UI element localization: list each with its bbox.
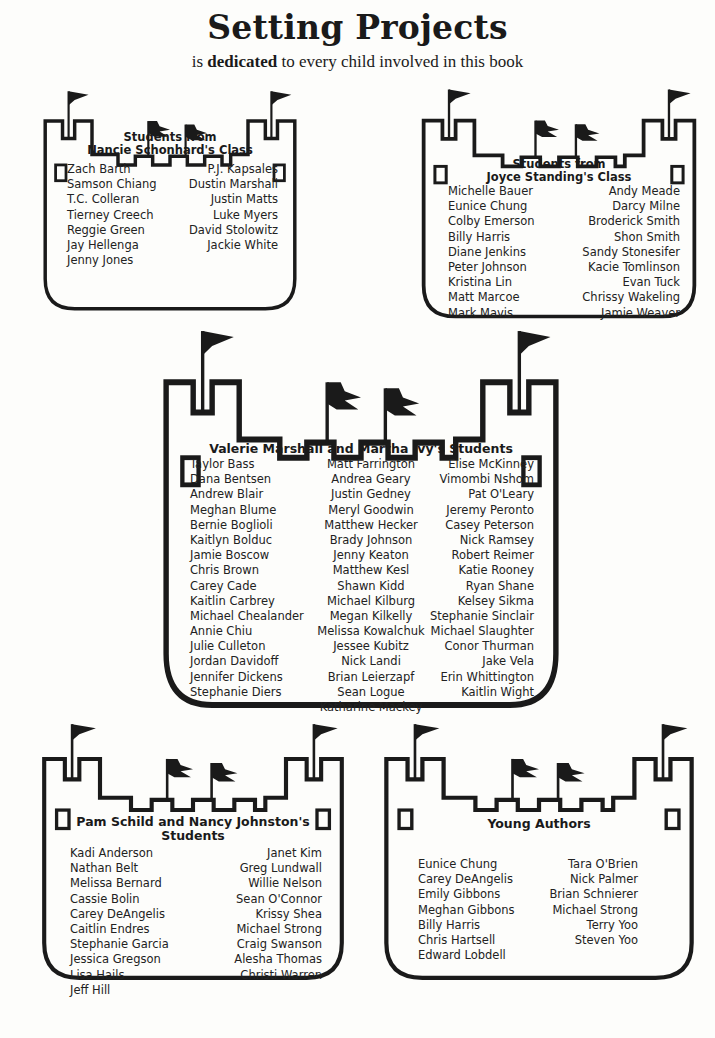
list-item: Meghan Gibbons [418,903,515,918]
list-item: Michael Chealander [190,609,304,624]
name-list-right: Elise McKinney Vimombi Nshom Pat O'Leary… [430,457,534,700]
list-item: Andy Meade [582,184,680,199]
list-item: Jeremy Peronto [430,503,534,518]
list-item: Michael Slaughter [430,624,534,639]
castle-nancie-schonhard: Students from Nancie Schonhard's Class Z… [40,86,300,314]
list-item: Samson Chiang [67,177,157,192]
list-item: Brian Leierzapf [306,670,436,685]
list-item: Michael Kilburg [306,594,436,609]
list-item: Jennifer Dickens [190,670,304,685]
list-item: Eunice Chung [448,199,535,214]
name-list-left: Taylor Bass Dana Bentsen Andrew Blair Me… [190,457,304,700]
list-item: Matthew Hecker [306,518,436,533]
list-item: Nick Landi [306,654,436,669]
list-item: Vimombi Nshom [430,472,534,487]
list-item: Reggie Green [67,223,157,238]
castle-joyce-standing: Students from Joyce Standing's Class Mic… [418,84,700,322]
list-item: Tierney Creech [67,208,157,223]
list-item: Craig Swanson [234,937,322,952]
list-item: Evan Tuck [582,275,680,290]
list-item: Ryan Shane [430,579,534,594]
list-item: Kaitlyn Bolduc [190,533,304,548]
list-item: Jordan Davidoff [190,654,304,669]
list-item: Tara O'Brien [549,857,638,872]
castle-heading: Students from Joyce Standing's Class [418,158,700,183]
subtitle-post: to every child involved in this book [277,52,523,71]
list-item: Matt Marcoe [448,290,535,305]
list-item: Christi Warren [234,968,322,983]
list-item: Emily Gibbons [418,887,515,902]
list-item: Carey DeAngelis [70,907,169,922]
castle-young-authors: Young Authors Eunice Chung Carey DeAngel… [380,718,698,984]
list-item: Elise McKinney [430,457,534,472]
list-item: Michelle Bauer [448,184,535,199]
list-item: Zach Barth [67,162,157,177]
list-item: Brian Schnierer [549,887,638,902]
name-list-left: Eunice Chung Carey DeAngelis Emily Gibbo… [418,857,515,963]
list-item: Jake Vela [430,654,534,669]
list-item: Matthew Kesl [306,563,436,578]
list-item: Kaitlin Wight [430,685,534,700]
list-item: Stephanie Sinclair [430,609,534,624]
list-item: Cassie Bolin [70,892,169,907]
list-item: Pat O'Leary [430,487,534,502]
list-item: Erin Whittington [430,670,534,685]
list-item: Jamie Weaver [582,306,680,321]
list-item: Nathan Belt [70,861,169,876]
list-item: Eunice Chung [418,857,515,872]
list-item: Stephanie Diers [190,685,304,700]
list-item: Conor Thurman [430,639,534,654]
list-item: Billy Harris [448,230,535,245]
list-item: Kacie Tomlinson [582,260,680,275]
list-item: Meghan Blume [190,503,304,518]
list-item: Peter Johnson [448,260,535,275]
list-item: Meryl Goodwin [306,503,436,518]
name-list-right: Andy Meade Darcy Milne Broderick Smith S… [582,184,680,321]
name-list-left: Michelle Bauer Eunice Chung Colby Emerso… [448,184,535,321]
list-item: Willie Nelson [234,876,322,891]
list-item: Megan Kilkelly [306,609,436,624]
list-item: Jessica Gregson [70,952,169,967]
list-item: Katie Rooney [430,563,534,578]
name-list-left: Kadi Anderson Nathan Belt Melissa Bernar… [70,846,169,998]
list-item: Lisa Hails [70,968,169,983]
name-list-right: Janet Kim Greg Lundwall Willie Nelson Se… [234,846,322,983]
list-item: Alesha Thomas [234,952,322,967]
list-item: Taylor Bass [190,457,304,472]
list-item: Shawn Kidd [306,579,436,594]
list-item: Matt Farrington [306,457,436,472]
list-item: Jeff Hill [70,983,169,998]
name-list-right: Tara O'Brien Nick Palmer Brian Schnierer… [549,857,638,948]
list-item: Chris Brown [190,563,304,578]
list-item: Bernie Boglioli [190,518,304,533]
list-item: Nick Palmer [549,872,638,887]
castle-heading: Young Authors [380,818,698,831]
list-item: Dana Bentsen [190,472,304,487]
list-item: Sean Logue [306,685,436,700]
list-item: Kaitlin Carbrey [190,594,304,609]
castle-heading: Pam Schild and Nancy Johnston's Students [38,815,348,843]
list-item: Jamie Boscow [190,548,304,563]
list-item: T.C. Colleran [67,192,157,207]
list-item: Kelsey Sikma [430,594,534,609]
dedication-subtitle: is dedicated to every child involved in … [0,52,715,72]
list-item: Krissy Shea [234,907,322,922]
list-item: Luke Myers [189,208,278,223]
list-item: Katharine Mackey [306,700,436,715]
page-title: Setting Projects [0,8,715,47]
list-item: Kadi Anderson [70,846,169,861]
castle-heading: Valerie Marshall and Martha Ivy's Studen… [158,443,564,456]
list-item: Melissa Bernard [70,876,169,891]
list-item: Robert Reimer [430,548,534,563]
castle-pam-schild: Pam Schild and Nancy Johnston's Students… [38,718,348,984]
list-item: Stephanie Garcia [70,937,169,952]
list-item: Terry Yoo [549,918,638,933]
name-list-left: Zach Barth Samson Chiang T.C. Colleran T… [67,162,157,268]
list-item: Janet Kim [234,846,322,861]
list-item: Jay Hellenga [67,238,157,253]
list-item: Jessee Kubitz [306,639,436,654]
list-item: Sean O'Connor [234,892,322,907]
list-item: Edward Lobdell [418,948,515,963]
subtitle-pre: is [192,52,208,71]
list-item: Andrew Blair [190,487,304,502]
